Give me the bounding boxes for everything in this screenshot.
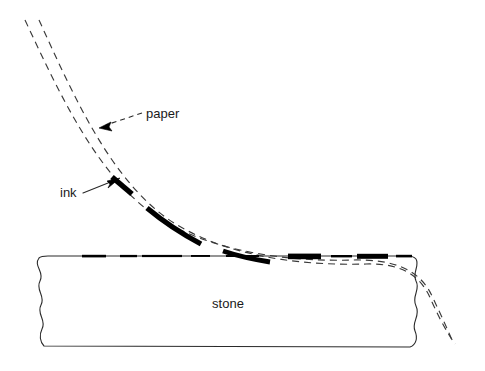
ink-mark-stone-8 [357, 254, 388, 259]
ink-mark-stone-5 [226, 255, 259, 257]
stone-label: stone [212, 296, 244, 311]
ink-mark-stone-2 [120, 255, 137, 257]
ink-mark-stone-7 [331, 255, 352, 257]
ink-label: ink [60, 185, 77, 200]
ink-mark-stone-4 [191, 255, 210, 257]
ink-mark-stone-1 [82, 255, 106, 258]
ink-mark-stone-6 [288, 254, 321, 260]
cross-section-diagram: stone paper [0, 0, 485, 371]
ink-mark-stone-9 [396, 255, 412, 258]
paper-label: paper [146, 106, 180, 121]
ink-mark-stone-3 [142, 255, 182, 257]
diagram-canvas: stone paper [0, 0, 485, 371]
stone-block-group: stone [37, 256, 417, 347]
